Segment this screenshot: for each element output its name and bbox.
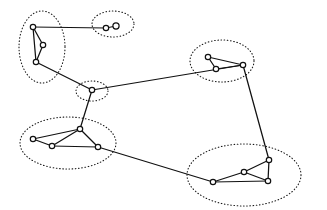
cluster-boundaries-layer bbox=[19, 11, 301, 206]
nodes-layer bbox=[30, 23, 271, 185]
edges-layer bbox=[33, 26, 269, 182]
graph-node bbox=[49, 143, 54, 148]
graph-node bbox=[213, 66, 218, 71]
graph-node bbox=[241, 169, 246, 174]
graph-node bbox=[30, 24, 35, 29]
diagram-canvas bbox=[0, 0, 327, 210]
graph-node bbox=[205, 54, 210, 59]
graph-edge bbox=[98, 147, 213, 182]
graph-node bbox=[240, 62, 245, 67]
graph-node bbox=[103, 25, 108, 30]
cluster-boundary bbox=[20, 117, 116, 169]
graph-edge bbox=[52, 146, 98, 147]
graph-node bbox=[210, 179, 215, 184]
graph-node bbox=[40, 42, 45, 47]
graph-edge bbox=[243, 65, 269, 160]
graph-node bbox=[77, 126, 82, 131]
graph-edge bbox=[33, 27, 106, 28]
graph-node bbox=[113, 23, 119, 29]
cluster-boundary bbox=[190, 40, 254, 82]
graph-edge bbox=[80, 129, 98, 147]
graph-node bbox=[265, 178, 270, 183]
graph-node bbox=[266, 157, 271, 162]
cluster-graph-figure bbox=[0, 0, 327, 210]
graph-node bbox=[33, 59, 38, 64]
graph-node bbox=[89, 87, 94, 92]
graph-edge bbox=[92, 65, 243, 90]
graph-edge bbox=[244, 160, 269, 172]
graph-edge bbox=[80, 90, 92, 129]
graph-node bbox=[95, 144, 100, 149]
graph-edge bbox=[36, 62, 92, 90]
graph-edge bbox=[244, 172, 268, 181]
graph-edge bbox=[213, 172, 244, 182]
graph-edge bbox=[213, 181, 268, 182]
graph-node bbox=[30, 136, 35, 141]
